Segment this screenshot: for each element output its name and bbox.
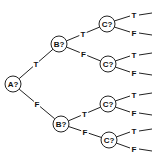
edge-line	[19, 67, 33, 79]
edge-line	[139, 13, 152, 15]
leaf-label: F	[132, 109, 137, 118]
edge-line	[115, 107, 130, 112]
edge-label: F	[83, 128, 88, 137]
edge-line	[19, 89, 34, 101]
edge-line	[69, 127, 82, 131]
edge-line	[40, 107, 55, 119]
edge-label: T	[82, 110, 87, 119]
edge-b1-c1: T	[66, 27, 99, 41]
leaf-label: T	[132, 51, 137, 60]
decision-tree: TFTFTFTFTFTFTFA?B?B?C?C?C?C?	[0, 0, 164, 163]
edge-line	[139, 113, 152, 115]
edge-label: F	[81, 50, 86, 59]
edge-line	[114, 16, 130, 21]
node-c4: C?	[101, 132, 117, 148]
leaf-edge-c4-T: T	[116, 127, 152, 137]
leaf-label: T	[132, 127, 137, 136]
node-c3: C?	[100, 96, 116, 112]
edge-a-b2: F	[19, 89, 55, 119]
node-label: C?	[102, 20, 113, 29]
leaf-label: T	[132, 11, 137, 20]
edge-line	[139, 93, 152, 95]
edge-line	[116, 132, 130, 137]
edge-line	[68, 116, 80, 121]
edge-line	[66, 47, 79, 52]
node-label: A?	[8, 80, 19, 89]
edge-line	[87, 56, 100, 61]
leaf-edge-c2-T: T	[115, 51, 152, 61]
edge-label: F	[35, 100, 40, 109]
edge-line	[139, 33, 152, 35]
edge-line	[87, 27, 100, 32]
edge-line	[139, 53, 152, 55]
leaf-edge-c2-F: F	[115, 67, 152, 78]
edge-line	[139, 73, 152, 75]
leaf-label: F	[132, 145, 137, 154]
edge-line	[115, 56, 130, 61]
edge-line	[115, 67, 130, 72]
edge-line	[89, 133, 102, 137]
edge-line	[116, 143, 130, 148]
leaf-label: F	[132, 69, 137, 78]
node-label: C?	[103, 60, 114, 69]
node-b1: B?	[51, 36, 67, 52]
leaf-edge-c4-F: F	[116, 143, 152, 154]
node-b2: B?	[53, 116, 69, 132]
leaf-edge-c3-T: T	[115, 91, 152, 101]
edge-line	[114, 27, 130, 32]
leaf-edge-c3-F: F	[115, 107, 152, 118]
node-c2: C?	[100, 56, 116, 72]
edge-line	[66, 36, 79, 41]
node-label: B?	[54, 40, 65, 49]
node-c1: C?	[99, 16, 115, 32]
edge-line	[139, 129, 152, 131]
edge-line	[88, 107, 100, 112]
leaf-edge-c1-F: F	[114, 27, 152, 38]
edge-line	[139, 149, 152, 151]
edge-b2-c3: T	[68, 107, 100, 121]
leaf-edge-c1-T: T	[114, 11, 152, 21]
edge-line	[115, 96, 130, 101]
edge-b1-c2: F	[66, 47, 100, 61]
edge-label: T	[81, 30, 86, 39]
node-label: B?	[56, 120, 67, 129]
edge-a-b1: T	[19, 49, 53, 79]
node-a: A?	[5, 76, 21, 92]
leaf-label: F	[132, 29, 137, 38]
node-label: C?	[103, 100, 114, 109]
node-label: C?	[104, 136, 115, 145]
edge-b2-c4: F	[69, 127, 102, 138]
leaf-label: T	[132, 91, 137, 100]
edge-label: T	[34, 60, 39, 69]
edge-line	[39, 49, 53, 61]
